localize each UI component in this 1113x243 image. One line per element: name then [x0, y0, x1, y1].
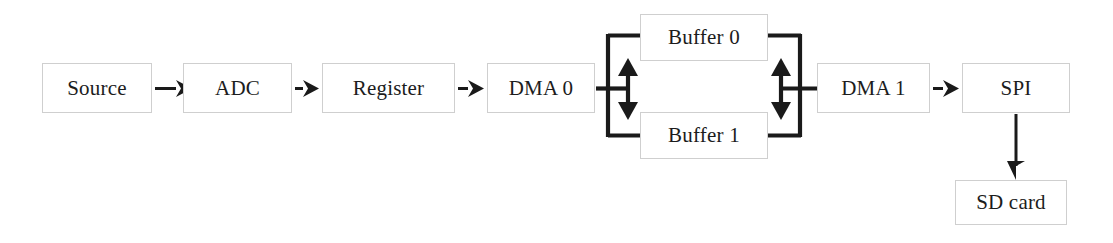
node-buffer1[interactable]: Buffer 1	[640, 112, 768, 159]
node-spi[interactable]: SPI	[962, 63, 1070, 113]
node-source-label: Source	[67, 76, 127, 101]
node-dma1[interactable]: DMA 1	[817, 63, 930, 113]
node-adc-label: ADC	[215, 76, 260, 101]
node-register[interactable]: Register	[322, 63, 455, 113]
connector-layer	[0, 0, 1113, 243]
connector-register-to-dma0	[458, 80, 484, 97]
node-dma1-label: DMA 1	[841, 76, 906, 101]
connector-spi-to-sdcard	[1007, 114, 1025, 180]
node-sdcard[interactable]: SD card	[955, 180, 1067, 225]
connector-dma1-to-spi	[933, 80, 959, 97]
connector-adc-to-register	[295, 80, 319, 97]
block-diagram: Source ADC Register DMA 0 Buffer 0 Buffe…	[0, 0, 1113, 243]
node-adc[interactable]: ADC	[183, 63, 292, 113]
node-source[interactable]: Source	[42, 63, 152, 113]
node-spi-label: SPI	[1001, 76, 1032, 101]
node-dma0[interactable]: DMA 0	[487, 63, 595, 113]
node-buffer0[interactable]: Buffer 0	[640, 14, 768, 61]
node-sdcard-label: SD card	[976, 190, 1046, 215]
node-buffer1-label: Buffer 1	[668, 123, 740, 148]
connector-buffers-to-dma1	[766, 34, 818, 137]
node-register-label: Register	[353, 76, 425, 101]
node-buffer0-label: Buffer 0	[668, 25, 740, 50]
node-dma0-label: DMA 0	[509, 76, 574, 101]
connector-dma0-to-buffers	[596, 34, 642, 137]
